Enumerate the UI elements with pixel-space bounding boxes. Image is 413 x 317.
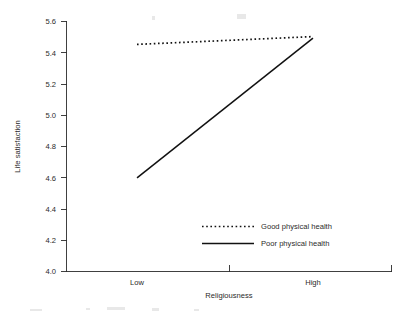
legend: Good physical health Poor physical healt… [202, 222, 332, 248]
y-tick-label: 4.4 [45, 205, 56, 214]
x-axis: Low High Religiousness [66, 265, 392, 300]
y-tick-label: 5.4 [45, 49, 56, 58]
x-tick-label-low: Low [130, 278, 144, 287]
y-tick-label: 4.2 [45, 236, 56, 245]
y-axis: 5.6 5.4 5.2 5.0 4.8 4.6 4.4 4.2 4.0 Life… [13, 17, 67, 276]
data-series-good-physical-health [137, 37, 313, 45]
y-axis-title: Life satisfaction [13, 120, 22, 172]
line-chart: 5.6 5.4 5.2 5.0 4.8 4.6 4.4 4.2 4.0 Life… [0, 0, 413, 317]
y-tick-label: 5.0 [45, 111, 56, 120]
data-series-poor-physical-health [137, 38, 313, 178]
y-tick-label: 5.6 [45, 17, 56, 26]
x-tick-label-high: High [305, 278, 321, 287]
scan-artifacts [30, 14, 246, 311]
figure-container: 5.6 5.4 5.2 5.0 4.8 4.6 4.4 4.2 4.0 Life… [0, 0, 413, 317]
y-tick-label: 4.0 [45, 267, 56, 276]
y-tick-label: 5.2 [45, 80, 56, 89]
y-tick-label: 4.6 [45, 174, 56, 183]
y-tick-label: 4.8 [45, 142, 56, 151]
legend-label-good-physical-health: Good physical health [261, 222, 332, 231]
legend-label-poor-physical-health: Poor physical health [261, 239, 329, 248]
x-axis-title: Religiousness [205, 291, 252, 300]
